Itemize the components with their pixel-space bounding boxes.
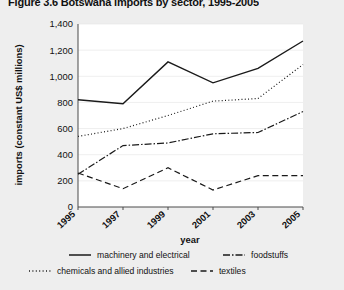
legend-item-chemicals-and-allied-industries[interactable]: chemicals and allied industries: [28, 266, 174, 276]
legend-item-textiles[interactable]: textiles: [190, 266, 246, 276]
x-axis-tick-label: 2001: [189, 208, 212, 230]
legend-label-machinery-and-electrical: machinery and electrical: [97, 250, 190, 260]
legend-label-foodstuffs: foodstuffs: [251, 250, 288, 260]
y-axis-tick-label: 200: [57, 175, 73, 186]
figure-title: Figure 3.6 Botswana imports by sector, 1…: [8, 0, 259, 8]
x-axis-tick-label: 2003: [234, 208, 257, 230]
legend-row-1: machinery and electrical foodstuffs: [68, 250, 288, 261]
y-axis-tick-label: 1,400: [50, 18, 73, 29]
x-axis-tick-label: 1997: [99, 208, 122, 230]
y-axis-tick-label: 400: [57, 149, 73, 160]
chart-legend: machinery and electrical foodstuffs chem…: [0, 248, 344, 290]
legend-label-chemicals-and-allied-industries: chemicals and allied industries: [57, 266, 174, 276]
plot-area: [78, 24, 303, 207]
x-axis-tick-label: 2005: [279, 208, 302, 230]
legend-key-dashed-icon: [190, 267, 214, 275]
legend-key-dotted-icon: [28, 267, 52, 275]
legend-item-foodstuffs[interactable]: foodstuffs: [222, 250, 288, 260]
legend-key-solid-icon: [68, 251, 92, 259]
legend-item-machinery-and-electrical[interactable]: machinery and electrical: [68, 250, 190, 260]
y-axis-tick-label: 800: [57, 97, 73, 108]
x-axis-tick-labels: 199519971999200120032005: [54, 207, 303, 230]
y-axis-tick-labels: 02004006008001,0001,2001,400: [50, 18, 73, 212]
x-axis-tick-label: 1999: [144, 208, 167, 230]
legend-label-textiles: textiles: [219, 266, 246, 276]
y-axis-tick-label: 600: [57, 123, 73, 134]
x-axis-title: year: [180, 234, 200, 245]
legend-row-2: chemicals and allied industries textiles: [28, 266, 246, 277]
y-axis-tick-label: 1,000: [50, 71, 73, 82]
legend-key-dash-dot-icon: [222, 251, 246, 259]
x-axis-tick-label: 1995: [54, 208, 77, 230]
y-axis-tick-label: 1,200: [50, 45, 73, 56]
y-axis-title: imports (constant US$ millions): [13, 44, 24, 185]
line-chart: 02004006008001,0001,2001,400 19951997199…: [0, 10, 344, 248]
